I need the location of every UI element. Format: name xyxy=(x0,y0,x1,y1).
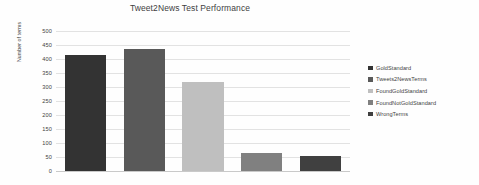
legend-item-label: WrongTerms xyxy=(376,111,408,117)
bar-foundgoldstandard xyxy=(182,82,223,171)
y-tick-label: 100 xyxy=(42,140,52,146)
legend-item[interactable]: FoundGoldStandard xyxy=(368,85,478,97)
y-tick-label: 200 xyxy=(42,112,52,118)
gridline: 0 xyxy=(56,171,350,172)
bar-goldstandard xyxy=(65,55,106,171)
legend-item-label: GoldStandard xyxy=(376,65,411,71)
bar-tweets2newsterms xyxy=(124,49,165,171)
plot-area: 050100150200250300350400450500 xyxy=(56,31,350,171)
y-axis-title: Number of terms xyxy=(16,0,22,62)
chart-title: Tweet2News Test Performance xyxy=(0,3,380,13)
legend-item-label: Tweets2NewsTerms xyxy=(376,76,427,82)
y-tick-label: 0 xyxy=(49,168,52,174)
chart-legend: GoldStandardTweets2NewsTermsFoundGoldSta… xyxy=(368,62,478,120)
legend-swatch-icon xyxy=(368,100,373,105)
legend-swatch-icon xyxy=(368,89,373,94)
y-tick-label: 500 xyxy=(42,28,52,34)
y-tick-label: 450 xyxy=(42,42,52,48)
legend-swatch-icon xyxy=(368,112,373,117)
y-tick-label: 350 xyxy=(42,70,52,76)
y-tick-label: 150 xyxy=(42,126,52,132)
y-tick-label: 250 xyxy=(42,98,52,104)
legend-swatch-icon xyxy=(368,77,373,82)
chart-container: Tweet2News Test Performance Number of te… xyxy=(0,0,479,185)
bar-foundnotgoldstandard xyxy=(241,153,282,171)
y-tick-label: 300 xyxy=(42,84,52,90)
legend-swatch-icon xyxy=(368,66,373,71)
legend-item[interactable]: Tweets2NewsTerms xyxy=(368,74,478,86)
y-tick-label: 50 xyxy=(46,154,52,160)
bar-wrongterms xyxy=(300,156,341,171)
legend-item-label: FoundGoldStandard xyxy=(376,88,427,94)
legend-item[interactable]: GoldStandard xyxy=(368,62,478,74)
legend-item-label: FoundNotGoldStandard xyxy=(376,100,436,106)
y-tick-label: 400 xyxy=(42,56,52,62)
legend-item[interactable]: FoundNotGoldStandard xyxy=(368,97,478,109)
bar-series xyxy=(56,31,350,171)
legend-item[interactable]: WrongTerms xyxy=(368,108,478,120)
